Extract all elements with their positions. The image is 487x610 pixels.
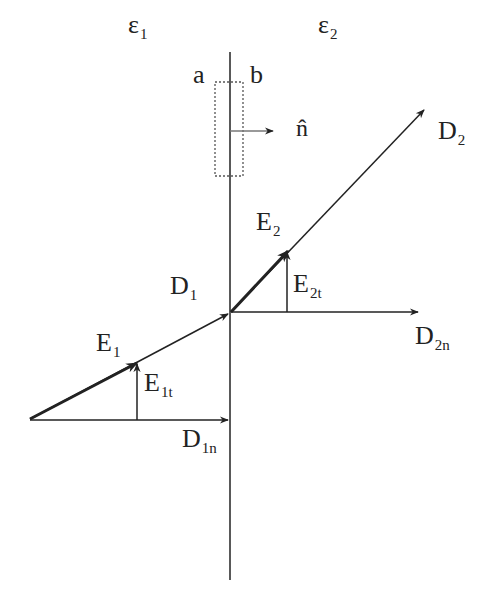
e2-vector (231, 251, 288, 312)
d2n-label: D2n (415, 323, 450, 353)
e1t-label: E1t (144, 370, 173, 400)
e2t-label: E2t (293, 271, 322, 301)
d2-label: D2 (438, 118, 465, 148)
d1n-label: D1n (182, 426, 217, 456)
side-a-label: a (193, 62, 205, 88)
diagram-canvas (0, 0, 487, 610)
gaussian-pillbox (215, 82, 243, 176)
e2-label: E2 (256, 209, 280, 239)
d1-label: D1 (170, 273, 197, 303)
normal-unit-vector-label: n̂ (296, 116, 308, 140)
epsilon-1-label: ε1 (128, 12, 147, 42)
epsilon-2-label: ε2 (318, 12, 337, 42)
e1-label: E1 (96, 330, 120, 360)
e1-vector (30, 363, 137, 419)
side-b-label: b (250, 62, 263, 88)
